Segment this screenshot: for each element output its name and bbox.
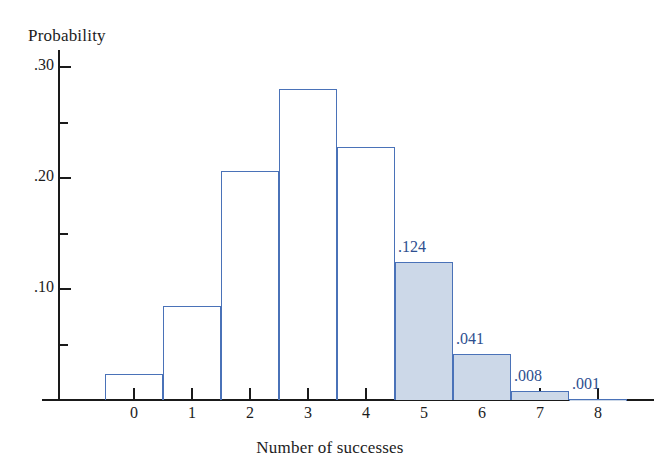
x-axis-tick-label: 7 [520, 404, 560, 422]
x-axis-tick-label: 5 [404, 404, 444, 422]
bar-value-label: .008 [514, 367, 542, 385]
x-axis-tick-label: 1 [172, 404, 212, 422]
y-axis-tick-label: .20 [14, 167, 54, 185]
bar-value-label: .001 [572, 375, 600, 393]
x-axis-tick-label: 4 [346, 404, 386, 422]
y-axis-minor-tick [60, 233, 68, 235]
x-axis-tick-label: 6 [462, 404, 502, 422]
y-axis-tick-label: .30 [14, 56, 54, 74]
bar-value-label: .041 [456, 330, 484, 348]
x-axis-tick-label: 8 [578, 404, 618, 422]
y-axis-tick-label: .10 [14, 278, 54, 296]
y-axis-major-tick [60, 66, 71, 68]
histogram-bar [221, 171, 279, 400]
histogram-bar [163, 306, 221, 400]
y-axis-major-tick [60, 177, 71, 179]
y-axis-line [58, 50, 60, 401]
histogram-bar [395, 262, 453, 400]
x-axis-tick-label: 3 [288, 404, 328, 422]
histogram-bar [279, 89, 337, 400]
histogram-bar [337, 147, 395, 400]
y-axis-major-tick [60, 288, 71, 290]
x-axis-tick-label: 2 [230, 404, 270, 422]
y-axis-minor-tick [60, 344, 68, 346]
plot-area: .10.20.30 012345678 .124.041.008.001 [0, 0, 660, 475]
x-axis-tick-label: 0 [114, 404, 154, 422]
histogram-bar [511, 391, 569, 400]
probability-histogram-chart: Probability .10.20.30 012345678 .124.041… [0, 0, 660, 475]
histogram-bar [453, 354, 511, 400]
bar-value-label: .124 [398, 238, 426, 256]
y-axis-minor-tick [60, 122, 68, 124]
x-axis-title: Number of successes [0, 438, 660, 458]
histogram-bar [569, 399, 627, 401]
histogram-bar [105, 374, 163, 400]
